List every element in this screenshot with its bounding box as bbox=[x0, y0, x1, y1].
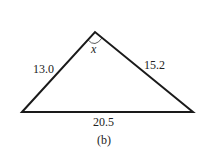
side-base-label: 20.5 bbox=[93, 116, 114, 128]
triangle-figure: x 13.0 15.2 20.5 (b) bbox=[0, 0, 206, 156]
angle-label: x bbox=[91, 43, 96, 55]
figure-caption: (b) bbox=[97, 134, 111, 146]
side-right-label: 15.2 bbox=[144, 59, 165, 71]
side-left-label: 13.0 bbox=[33, 63, 54, 75]
